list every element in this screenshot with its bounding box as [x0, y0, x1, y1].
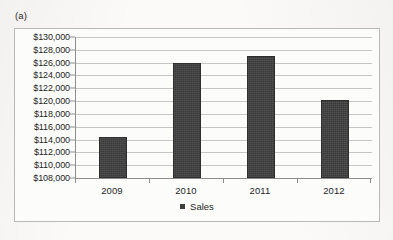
y-axis: $130,000$128,000$126,000$124,000$122,000… — [15, 37, 73, 178]
bar-slot — [298, 37, 372, 178]
y-axis-tick-label: $114,000 — [34, 135, 70, 145]
y-axis-tick-label: $110,000 — [34, 160, 70, 170]
bar-series-sales — [76, 37, 372, 178]
bar-2012[interactable] — [321, 100, 349, 178]
y-axis-tick-label: $130,000 — [33, 32, 70, 42]
y-axis-tick-label: $124,000 — [33, 70, 70, 80]
x-axis-tick-mark — [223, 179, 224, 183]
x-axis-slot: 2012 — [297, 179, 371, 201]
figure-label: (a) — [15, 10, 27, 21]
y-axis-tick-label: $120,000 — [33, 96, 70, 106]
x-axis-slot: 2010 — [149, 179, 223, 201]
x-axis: 2009201020112012 — [75, 179, 371, 201]
bar-slot — [150, 37, 224, 178]
y-axis-tick-label: $112,000 — [34, 147, 70, 157]
bar-2010[interactable] — [173, 63, 201, 178]
x-axis-tick-label: 2009 — [75, 185, 149, 196]
plot-wrapper: $130,000$128,000$126,000$124,000$122,000… — [15, 29, 379, 221]
y-axis-tick-label: $108,000 — [33, 173, 70, 183]
bar-slot — [76, 37, 150, 178]
chart-legend: Sales — [15, 201, 379, 212]
y-axis-tick-label: $128,000 — [33, 45, 70, 55]
y-axis-tick-label: $116,000 — [34, 122, 70, 132]
legend-swatch-sales-icon — [180, 204, 185, 209]
bar-2009[interactable] — [99, 137, 127, 178]
plot-area — [75, 37, 372, 179]
x-axis-tick-label: 2011 — [223, 185, 297, 196]
x-axis-tick-mark — [297, 179, 298, 183]
y-axis-tick-label: $126,000 — [33, 58, 70, 68]
legend-label-sales: Sales — [190, 201, 214, 212]
x-axis-tick-label: 2010 — [149, 185, 223, 196]
bar-slot — [224, 37, 298, 178]
x-axis-slot: 2011 — [223, 179, 297, 201]
x-axis-tick-mark — [149, 179, 150, 183]
x-axis-tick-mark — [75, 179, 76, 183]
chart-frame: $130,000$128,000$126,000$124,000$122,000… — [14, 28, 380, 222]
y-axis-tick-label: $122,000 — [33, 83, 70, 93]
x-axis-slot: 2009 — [75, 179, 149, 201]
y-axis-tick-label: $118,000 — [34, 109, 70, 119]
x-axis-tick-label: 2012 — [297, 185, 371, 196]
bar-2011[interactable] — [247, 56, 275, 178]
